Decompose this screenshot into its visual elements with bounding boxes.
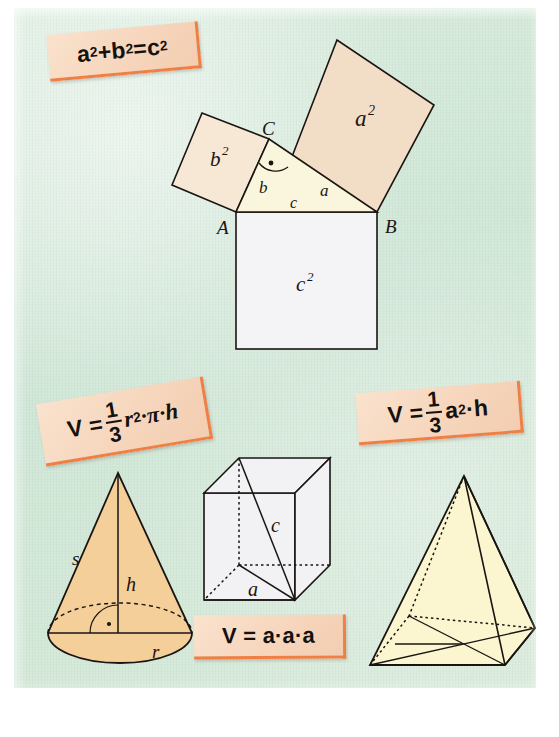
exp-a: 2 [90, 52, 98, 53]
cone-height-label: h [126, 573, 136, 595]
volume-lead: V = [387, 399, 425, 429]
svg-text:2: 2 [307, 269, 314, 284]
exp-c: 2 [160, 46, 168, 47]
cube-space-diagonal-label: c [271, 514, 280, 536]
times-height: ·h [465, 394, 489, 423]
svg-text:2: 2 [222, 143, 229, 158]
cone-slant-label: s [72, 548, 79, 569]
cone-radius-label: r [152, 641, 160, 662]
vertex-label-a: A [215, 217, 229, 238]
fraction-numerator: 1 [102, 398, 121, 422]
pythagorean-theorem-formula-text: a2 + b2 = c2 [76, 33, 169, 68]
vertex-label-c: C [262, 118, 275, 139]
fraction-numerator: 1 [425, 388, 443, 411]
pyramid-volume-formula-text: V = 1 3 a2·h [386, 385, 490, 439]
radius-exponent: 2 [133, 417, 141, 418]
cube-edge-label: a [248, 578, 258, 600]
pyramid-body [370, 476, 535, 665]
base-edge-exponent: 2 [458, 409, 466, 410]
term-a: a [76, 40, 91, 68]
page-root: A B C b a c a 2 b 2 c 2 [0, 0, 559, 737]
square-pyramid-diagram [362, 468, 542, 683]
right-angle-dot-at-c [269, 161, 274, 166]
volume-lead: V = [65, 410, 105, 443]
fraction-denominator: 3 [105, 420, 125, 446]
cube-volume-formula-text: V = a·a·a [222, 622, 315, 649]
side-label-b: b [259, 178, 268, 197]
term-b: b [110, 36, 127, 64]
term-c: c [146, 33, 161, 61]
one-third-fraction: 1 3 [425, 388, 444, 435]
cone-diagram: s h r [30, 465, 210, 690]
side-label-c: c [290, 194, 297, 211]
cone-body [48, 473, 192, 663]
cone-right-angle-dot [107, 622, 111, 626]
fraction-denominator: 3 [426, 410, 444, 435]
cone-volume-formula-text: V = 1 3 r2·π·h [64, 388, 183, 452]
cube-diagram: c a [192, 448, 347, 618]
one-third-fraction: 1 3 [102, 398, 125, 446]
base-edge-symbol: a [444, 397, 459, 425]
pi-times-height: ·π·h [139, 398, 180, 430]
svg-text:c: c [296, 272, 306, 296]
svg-text:a: a [355, 106, 367, 131]
exp-b: 2 [126, 49, 134, 50]
svg-text:2: 2 [368, 103, 375, 118]
vertex-label-b: B [385, 216, 397, 237]
svg-text:b: b [210, 147, 221, 171]
cube-volume-formula-sticker: V = a·a·a [194, 614, 346, 659]
side-label-a: a [320, 181, 329, 200]
